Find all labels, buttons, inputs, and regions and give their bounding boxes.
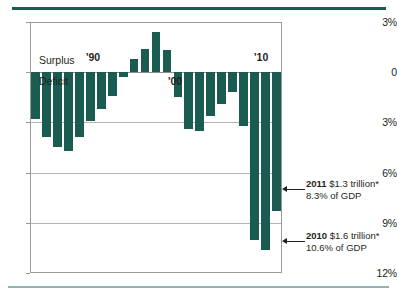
bar	[86, 72, 95, 121]
annotation-2011-year: 2011	[306, 178, 327, 189]
annotation-2010: 2010 $1.6 trillion* 10.6% of GDP	[306, 230, 379, 253]
bar	[163, 50, 172, 72]
leader-line-2011	[287, 189, 305, 190]
bar	[119, 72, 128, 77]
bar	[239, 72, 248, 126]
annotation-2011-value: $1.3 trillion*	[329, 178, 379, 189]
chart-figure: 3%03%6%9%12% '90'00'10 Surplus Deficit 2…	[0, 0, 397, 302]
x-axis-label: '90	[86, 52, 100, 63]
surplus-label: Surplus	[39, 55, 75, 66]
y-tick-label: 9%	[371, 218, 397, 229]
bar	[228, 72, 237, 92]
deficit-label: Deficit	[39, 76, 68, 87]
bar	[141, 49, 150, 72]
bar	[217, 72, 226, 104]
x-axis-label: '00	[168, 76, 182, 87]
y-tick-label: 12%	[371, 268, 397, 279]
leader-line-2010	[287, 241, 305, 242]
bar	[108, 72, 117, 95]
arrowhead-2011	[282, 186, 287, 192]
y-tick-label: 3%	[371, 17, 397, 28]
x-axis-label: '10	[254, 52, 268, 63]
bar	[130, 59, 139, 72]
y-tick-label: 3%	[371, 117, 397, 128]
bar	[272, 72, 281, 211]
bar	[97, 72, 106, 109]
top-rule	[12, 7, 386, 10]
annotation-2011: 2011 $1.3 trillion* 8.3% of GDP	[306, 178, 379, 201]
annotation-2011-gdp: 8.3% of GDP	[306, 190, 379, 202]
bar	[206, 72, 215, 116]
bar	[75, 72, 84, 137]
annotation-2010-gdp: 10.6% of GDP	[306, 242, 379, 254]
bar	[152, 32, 161, 72]
y-tick-mark	[26, 273, 30, 274]
bar	[195, 72, 204, 131]
y-tick-label: 0	[371, 67, 397, 78]
annotation-2010-value: $1.6 trillion*	[330, 230, 380, 241]
arrowhead-2010	[282, 238, 287, 244]
bar	[261, 72, 270, 249]
bottom-rule	[8, 286, 389, 288]
bar	[250, 72, 259, 239]
annotation-2010-year: 2010	[306, 230, 327, 241]
bar	[184, 72, 193, 129]
y-tick-label: 6%	[371, 168, 397, 179]
